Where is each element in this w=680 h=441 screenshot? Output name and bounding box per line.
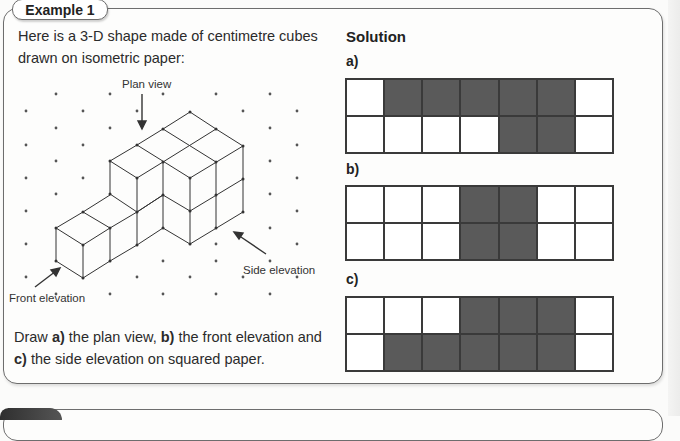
front-elevation-arrow <box>35 268 60 287</box>
side-elevation-label: Side elevation <box>243 264 315 276</box>
grid-cell-empty <box>460 116 498 153</box>
grid-cell-filled <box>537 334 575 371</box>
instructions-prefix: Draw <box>14 329 52 345</box>
grid-cell-empty <box>575 116 613 153</box>
grid-cell-empty <box>537 223 575 260</box>
grid-cell-empty <box>346 186 384 223</box>
part-c-text: the side elevation on squared paper. <box>27 351 265 367</box>
grid-cell-filled <box>460 186 498 223</box>
solution-part-c-label: c) <box>346 271 358 287</box>
grid-cell-filled <box>422 79 460 116</box>
grid-cell-filled <box>499 223 537 260</box>
grid-cell-filled <box>499 297 537 334</box>
grid-cell-empty <box>575 334 613 371</box>
grid-cell-filled <box>460 79 498 116</box>
grid-cell-filled <box>499 186 537 223</box>
grid-cell-empty <box>346 116 384 153</box>
part-b-ref: b) <box>161 329 175 345</box>
example-tab: Example 1 <box>12 0 108 20</box>
part-b-text: the front elevation and <box>174 329 322 345</box>
solution-title: Solution <box>346 28 406 45</box>
grid-cell-filled <box>384 334 422 371</box>
grid-cell-empty <box>422 116 460 153</box>
grid-cell-filled <box>499 116 537 153</box>
grid-cell-empty <box>346 223 384 260</box>
grid-cell-empty <box>575 297 613 334</box>
grid-cell-empty <box>422 186 460 223</box>
grid-cell-empty <box>384 297 422 334</box>
grid-cell-empty <box>575 186 613 223</box>
grid-cell-filled <box>460 297 498 334</box>
grid-cell-empty <box>384 223 422 260</box>
grid-cell-filled <box>460 223 498 260</box>
grid-cell-filled <box>422 334 460 371</box>
grid-cell-empty <box>575 223 613 260</box>
plan-view-label: Plan view <box>122 78 171 90</box>
solution-grid-c <box>345 296 614 372</box>
grid-cell-filled <box>537 79 575 116</box>
instructions-text: Draw a) the plan view, b) the front elev… <box>14 326 344 370</box>
front-elevation-label: Front elevation <box>9 292 85 304</box>
grid-cell-empty <box>422 297 460 334</box>
grid-cell-empty <box>384 186 422 223</box>
grid-cell-filled <box>537 116 575 153</box>
grid-cell-empty <box>537 186 575 223</box>
solution-grid-a <box>345 78 614 154</box>
solution-part-a-label: a) <box>346 53 358 69</box>
grid-cell-filled <box>537 297 575 334</box>
grid-cell-empty <box>422 223 460 260</box>
grid-cell-filled <box>384 79 422 116</box>
side-elevation-arrow <box>234 232 266 254</box>
next-section-tab <box>0 408 62 420</box>
solution-part-b-label: b) <box>346 161 359 177</box>
next-section-box <box>3 409 663 441</box>
grid-cell-filled <box>460 334 498 371</box>
part-a-ref: a) <box>52 329 65 345</box>
plan-view-arrow <box>138 94 146 129</box>
part-a-text: the plan view, <box>65 329 161 345</box>
page-edge <box>668 0 680 416</box>
solution-grid-b <box>345 185 614 261</box>
grid-cell-filled <box>499 334 537 371</box>
grid-cell-empty <box>346 297 384 334</box>
grid-cell-empty <box>346 334 384 371</box>
grid-cell-empty <box>384 116 422 153</box>
grid-cell-empty <box>575 79 613 116</box>
grid-cell-filled <box>499 79 537 116</box>
part-c-ref: c) <box>14 351 27 367</box>
grid-cell-empty <box>346 79 384 116</box>
